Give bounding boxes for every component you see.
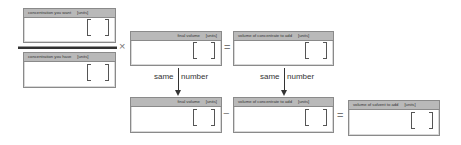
box-label: volume of concentrate to add <box>238 99 292 104</box>
concentration-want-box: concentration you want[units] <box>23 8 116 43</box>
box-units: [units] <box>206 33 217 38</box>
box-label: volume of concentrate to add <box>238 33 292 38</box>
arrow-line <box>284 68 285 91</box>
answer-input-bracket[interactable] <box>193 42 215 59</box>
arrow-down-icon <box>281 90 287 96</box>
arrow-line <box>178 68 179 91</box>
box-label: final volume <box>177 33 199 38</box>
box-header: concentration you want[units] <box>24 9 115 18</box>
answer-input-bracket[interactable] <box>87 19 109 36</box>
box-header: final volume[units] <box>131 98 221 107</box>
equals-operator: = <box>224 42 230 53</box>
final-volume-top-box: final volume[units] <box>130 31 222 66</box>
concentration-have-box: concentration you have[units] <box>23 52 116 88</box>
number-label: number <box>287 72 314 81</box>
equals-operator: = <box>337 110 343 121</box>
box-header: volume of concentrate to add[units] <box>234 98 333 107</box>
box-units: [units] <box>206 99 217 104</box>
box-units: [units] <box>298 33 309 38</box>
box-units: [units] <box>298 99 309 104</box>
box-header: final volume[units] <box>131 32 221 41</box>
answer-input-bracket[interactable] <box>87 64 109 81</box>
final-volume-bottom-box: final volume[units] <box>130 97 222 133</box>
fraction-bar <box>18 46 117 49</box>
arrow-down-icon <box>175 90 181 96</box>
box-label: concentration you want <box>28 10 71 15</box>
multiply-operator: × <box>119 41 125 52</box>
solvent-volume-box: volume of solvent to add[units] <box>348 100 440 136</box>
box-label: final volume <box>177 99 199 104</box>
same-label: same <box>154 72 174 81</box>
minus-operator: − <box>223 108 229 119</box>
same-label: same <box>260 72 280 81</box>
box-units: [units] <box>77 10 88 15</box>
box-header: volume of concentrate to add[units] <box>234 32 333 41</box>
concentrate-volume-bottom-box: volume of concentrate to add[units] <box>233 97 334 133</box>
concentrate-volume-top-box: volume of concentrate to add[units] <box>233 31 334 66</box>
box-header: concentration you have[units] <box>24 53 115 62</box>
answer-input-bracket[interactable] <box>305 42 327 59</box>
box-label: volume of solvent to add <box>353 102 398 107</box>
box-units: [units] <box>77 54 88 59</box>
answer-input-bracket[interactable] <box>193 109 215 126</box>
box-units: [units] <box>404 102 415 107</box>
answer-input-bracket[interactable] <box>305 109 327 126</box>
number-label: number <box>181 72 208 81</box>
box-label: concentration you have <box>28 54 71 59</box>
box-header: volume of solvent to add[units] <box>349 101 439 110</box>
answer-input-bracket[interactable] <box>411 112 433 129</box>
